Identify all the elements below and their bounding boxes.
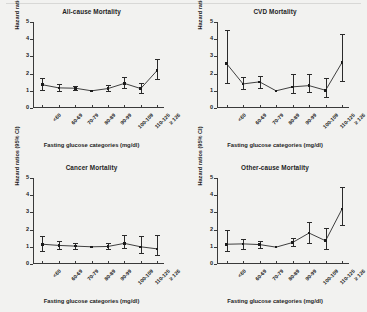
error-bar-cap <box>40 90 45 91</box>
y-axis-label: Hazard ratios (95% CI) <box>197 0 203 34</box>
data-point-marker <box>123 242 126 245</box>
data-point-marker <box>139 87 142 90</box>
x-axis-tick-label: 100-109 <box>322 112 340 130</box>
plot-area: 012345<6060-6970-7980-8990-99100-109110-… <box>217 22 349 108</box>
data-point-marker <box>156 69 159 72</box>
error-bar-cap <box>122 235 127 236</box>
error-bar-cap <box>241 249 246 250</box>
error-bar-cap <box>291 238 296 239</box>
error-bar-cap <box>122 248 127 249</box>
error-bar-cap <box>73 90 78 91</box>
x-axis-tick-label: 80-89 <box>102 268 116 282</box>
error-bar-cap <box>225 230 230 231</box>
data-point-marker <box>90 90 93 93</box>
error-bar-cap <box>122 88 127 89</box>
data-point-marker <box>90 246 93 249</box>
panel-title: Other-cause Mortality <box>183 164 367 171</box>
plot-area: 012345<6060-6970-7980-8990-99100-109110-… <box>217 178 349 264</box>
x-axis-tick-label: 90-99 <box>303 268 317 282</box>
error-bar-cap <box>225 83 230 84</box>
y-axis-tick-label: 5 <box>20 175 29 181</box>
data-point-marker <box>107 87 110 90</box>
error-bar-cap <box>57 249 62 250</box>
x-axis-tick-label: 60-69 <box>70 112 84 126</box>
data-point-marker <box>258 81 261 84</box>
series-line <box>217 178 349 264</box>
x-axis-label: Fasting glucose categories (mg/dl) <box>0 298 183 304</box>
error-bar-cap <box>324 78 329 79</box>
error-bar-cap <box>291 246 296 247</box>
x-axis-tick-label: 70-79 <box>270 112 284 126</box>
y-axis-tick-label: 2 <box>204 227 213 233</box>
x-axis-tick-label: 70-79 <box>86 268 100 282</box>
error-bar-cap <box>73 249 78 250</box>
error-bar-cap <box>40 251 45 252</box>
data-point-marker <box>275 90 278 93</box>
error-bar <box>342 187 343 225</box>
y-axis-tick-label: 3 <box>204 209 213 215</box>
plot-area: 012345<6060-6970-7980-8990-99100-109110-… <box>33 22 164 108</box>
error-bar-cap <box>324 249 329 250</box>
y-axis-tick-label: 0 <box>204 105 213 111</box>
data-point-marker <box>41 243 44 246</box>
error-bar-cap <box>307 92 312 93</box>
error-bar-cap <box>106 243 111 244</box>
error-bar <box>326 228 327 250</box>
error-bar-cap <box>258 88 263 89</box>
error-bar-cap <box>139 236 144 237</box>
error-bar-cap <box>307 74 312 75</box>
x-axis-tick-label: 80-89 <box>287 112 301 126</box>
data-point-marker <box>242 83 245 86</box>
y-axis-tick-label: 4 <box>204 192 213 198</box>
y-axis-tick-label: 1 <box>204 244 213 250</box>
data-point-marker <box>258 243 261 246</box>
x-axis-tick-label: 60-69 <box>70 268 84 282</box>
y-axis-tick-label: 2 <box>20 227 29 233</box>
x-axis-tick-label: 80-89 <box>287 268 301 282</box>
error-bar <box>157 235 158 255</box>
error-bar-cap <box>241 239 246 240</box>
error-bar-cap <box>106 249 111 250</box>
error-bar-cap <box>155 235 160 236</box>
y-axis-tick-label: 5 <box>20 19 29 25</box>
y-axis-tick-label: 0 <box>20 261 29 267</box>
y-axis-tick <box>30 108 33 109</box>
error-bar-cap <box>225 251 230 252</box>
error-bar-cap <box>106 91 111 92</box>
data-point-marker <box>123 82 126 85</box>
error-bar <box>227 30 228 82</box>
error-bar-cap <box>139 253 144 254</box>
error-bar-cap <box>155 59 160 60</box>
error-bar-cap <box>241 89 246 90</box>
data-point-marker <box>275 246 278 249</box>
panel-title: CVD Mortality <box>183 8 367 15</box>
y-axis-tick-label: 5 <box>204 175 213 181</box>
y-axis-label: Hazard ratios (95% CI) <box>14 0 20 34</box>
data-point-marker <box>139 246 142 249</box>
figure-panel-grid: All-cause Mortality Hazard ratios (95% C… <box>0 0 367 312</box>
data-point-marker <box>291 86 294 89</box>
error-bar-cap <box>155 255 160 256</box>
y-axis-tick-label: 5 <box>204 19 213 25</box>
data-point-marker <box>225 62 228 65</box>
error-bar-cap <box>307 222 312 223</box>
error-bar-cap <box>307 243 312 244</box>
data-point-marker <box>107 245 110 248</box>
data-point-marker <box>58 87 61 90</box>
error-bar-cap <box>340 34 345 35</box>
y-axis-tick-label: 3 <box>20 53 29 59</box>
panel-other-cause-mortality: Other-cause Mortality Hazard ratios (95%… <box>183 156 367 312</box>
error-bar-cap <box>40 78 45 79</box>
x-axis-tick-label: 80-89 <box>102 112 116 126</box>
error-bar-cap <box>106 85 111 86</box>
data-point-marker <box>308 232 311 235</box>
data-point-marker <box>324 239 327 242</box>
y-axis-tick-label: 0 <box>204 261 213 267</box>
error-bar-cap <box>324 97 329 98</box>
data-point-marker <box>308 84 311 87</box>
data-point-marker <box>291 241 294 244</box>
y-axis-tick-label: 3 <box>20 209 29 215</box>
error-bar-cap <box>340 225 345 226</box>
data-point-marker <box>324 89 327 92</box>
y-axis-tick-label: 0 <box>20 105 29 111</box>
